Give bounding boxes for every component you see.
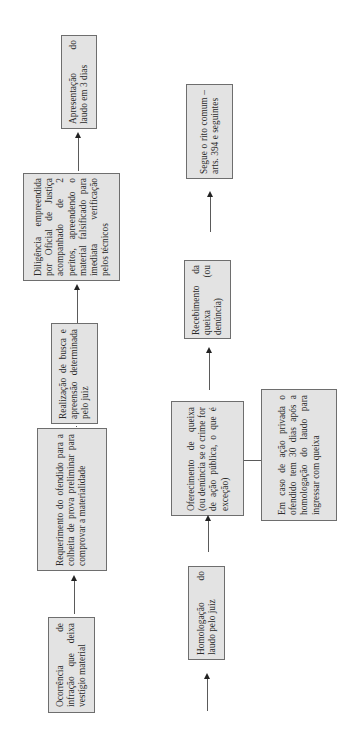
box-segue-text: Segue o rito comum – arts. 394 e seguint…: [198, 90, 220, 174]
box-recebimento-text: Recebimento da queixa (ou denúncia): [191, 265, 225, 335]
arrowhead-icon: [75, 132, 81, 138]
box-oferecimento-text: Oferecimento de queixa (ou denúncia se o…: [185, 407, 230, 511]
arrowhead-icon: [207, 191, 213, 197]
box-apresentacao: Apresentação do laudo em 3 dias: [61, 35, 97, 129]
connector-start-homologacao: [207, 678, 208, 711]
arrowhead-icon: [205, 515, 211, 521]
connector-ocorrencia-requerimento: [74, 580, 75, 614]
connector-oferecimento-recebimento: [209, 352, 210, 390]
box-requerimento-text: Requerimento do ofendido para a colheita…: [55, 434, 89, 566]
box-em-caso-note: Em caso de ação privada o ofendido tem 3…: [261, 389, 337, 521]
arrowhead-icon: [204, 673, 210, 679]
connector-homologacao-oferecimento: [208, 520, 209, 552]
box-homologacao-text: Homologação do laudo pelo juiz: [195, 571, 217, 655]
box-diligencia-text: Diligência empreendida por Oficial de Ju…: [32, 178, 110, 276]
box-ocorrencia-text: Ocorrência de infração que deixa vestígi…: [55, 623, 89, 707]
arrowhead-icon: [71, 575, 77, 581]
box-em-caso-text: Em caso de ação privada o ofendido tem 3…: [277, 395, 322, 515]
box-recebimento: Recebimento da queixa (ou denúncia): [184, 260, 231, 339]
box-homologacao: Homologação do laudo pelo juiz: [188, 566, 225, 660]
box-oferecimento: Oferecimento de queixa (ou denúncia se o…: [171, 401, 244, 516]
connector-diligencia-apresentacao: [78, 137, 79, 171]
arrowhead-icon: [206, 347, 212, 353]
connector-realizacao-diligencia: [77, 289, 78, 323]
box-apresentacao-text: Apresentação do laudo em 3 dias: [68, 40, 90, 124]
box-ocorrencia: Ocorrência de infração que deixa vestígi…: [48, 617, 95, 713]
box-diligencia: Diligência empreendida por Oficial de Ju…: [23, 173, 120, 281]
arrowhead-icon: [74, 284, 80, 290]
box-requerimento: Requerimento do ofendido para a colheita…: [37, 428, 107, 571]
box-realizacao-text: Realização de busca e apreensão determin…: [58, 329, 92, 419]
connector-oferecimento-note: [244, 460, 262, 461]
connector-requerimento-realizacao-line: [76, 426, 77, 427]
box-segue: Segue o rito comum – arts. 394 e seguint…: [186, 84, 233, 179]
box-realizacao: Realização de busca e apreensão determin…: [51, 323, 98, 424]
connector-recebimento-segue: [210, 196, 211, 232]
